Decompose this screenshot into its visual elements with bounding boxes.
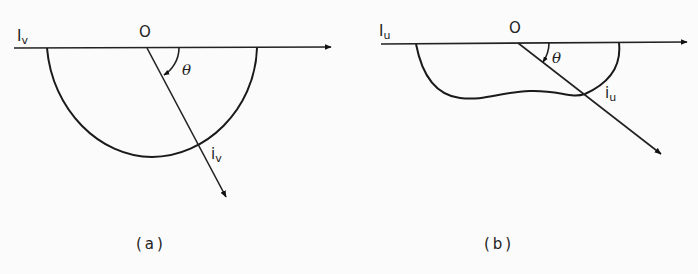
figure: Iv O θ iv (a) Iu O θ iu (b) — [0, 0, 698, 274]
caption-a: (a) — [136, 235, 166, 253]
axis-label-b: Iu — [379, 22, 390, 42]
panel-b: Iu O θ iu (b) — [379, 19, 687, 253]
axis-line-a — [14, 47, 331, 48]
ray-b — [518, 43, 661, 154]
angle-arc-a — [164, 48, 179, 75]
semicircle-region-a — [47, 48, 257, 157]
angle-arc-b — [543, 43, 549, 62]
ray-label-a: iv — [211, 145, 222, 165]
angle-label-a: θ — [182, 61, 191, 79]
origin-label-b: O — [509, 19, 521, 37]
caption-b: (b) — [484, 235, 514, 253]
angle-label-b: θ — [552, 49, 561, 67]
axis-line-b — [381, 42, 687, 44]
origin-label-a: O — [139, 23, 151, 41]
irregular-region-b — [416, 43, 619, 99]
ray-label-b: iu — [605, 84, 616, 104]
axis-label-a: Iv — [17, 27, 28, 47]
panel-a: Iv O θ iv (a) — [14, 23, 331, 253]
